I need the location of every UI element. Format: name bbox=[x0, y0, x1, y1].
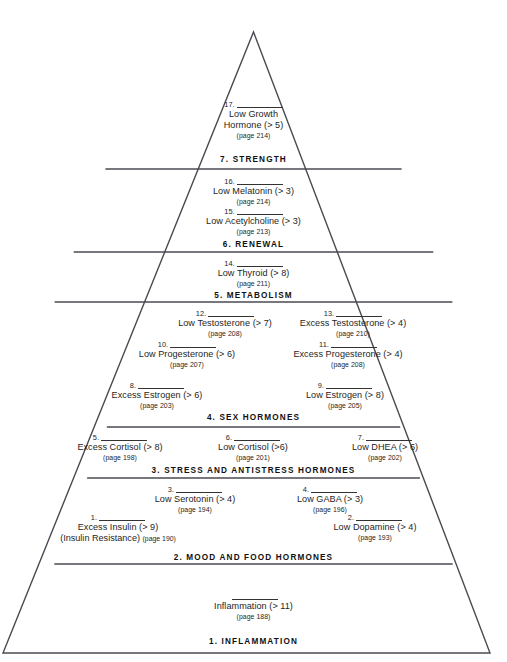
item-2-low-dopamine: 2. Low Dopamine (> 4) (page 193) bbox=[300, 513, 450, 542]
item-11-number-line[interactable]: 11. bbox=[268, 340, 428, 349]
level-label-strength: 7. STRENGTH bbox=[0, 155, 507, 164]
item-1-page-ref: (page 190) bbox=[143, 535, 176, 542]
item-15-number-line[interactable]: 15. bbox=[0, 207, 507, 216]
inflammation-name: Inflammation (> 11) bbox=[0, 601, 507, 612]
level-label-renewal: 6. RENEWAL bbox=[0, 240, 507, 249]
item-16-low-melatonin: 16. Low Melatonin (> 3) (page 214) bbox=[0, 177, 507, 206]
write-in-rule[interactable] bbox=[366, 440, 412, 441]
write-in-rule[interactable] bbox=[331, 347, 377, 348]
item-13-name: Excess Testosterone (> 4) bbox=[278, 318, 428, 329]
item-9-page-ref: (page 205) bbox=[275, 401, 415, 410]
write-in-rule[interactable] bbox=[326, 388, 372, 389]
item-5-number-line[interactable]: 5. bbox=[45, 433, 195, 442]
level-label-sex-hormones: 4. SEX HORMONES bbox=[0, 413, 507, 422]
level-label-metabolism: 5. METABOLISM bbox=[0, 291, 507, 300]
item-17-name: Low Growth bbox=[0, 109, 507, 120]
item-17-low-growth-hormone: 17. Low Growth Hormone (> 5) (page 214) bbox=[0, 100, 507, 140]
write-in-rule[interactable] bbox=[232, 599, 278, 600]
item-3-low-serotonin: 3. Low Serotonin (> 4) (page 194) bbox=[120, 485, 270, 514]
item-11-page-ref: (page 208) bbox=[268, 360, 428, 369]
item-1-excess-insulin: 1. Excess Insulin (> 9) (Insulin Resista… bbox=[28, 513, 208, 544]
item-17-page-ref: (page 214) bbox=[0, 131, 507, 140]
write-in-rule[interactable] bbox=[311, 492, 357, 493]
item-8-number-line[interactable]: 8. bbox=[82, 381, 232, 390]
item-10-page-ref: (page 207) bbox=[112, 360, 262, 369]
write-in-rule[interactable] bbox=[234, 440, 280, 441]
item-7-number-line[interactable]: 7. bbox=[310, 433, 460, 442]
item-13-excess-testosterone: 13. Excess Testosterone (> 4) (page 210) bbox=[278, 309, 428, 338]
item-16-name: Low Melatonin (> 3) bbox=[0, 186, 507, 197]
item-2-page-ref: (page 193) bbox=[300, 533, 450, 542]
write-in-rule[interactable] bbox=[336, 316, 382, 317]
item-13-number-line[interactable]: 13. bbox=[278, 309, 428, 318]
item-14-name: Low Thyroid (> 8) bbox=[0, 268, 507, 279]
item-12-name: Low Testosterone (> 7) bbox=[155, 318, 295, 329]
item-8-page-ref: (page 203) bbox=[82, 401, 232, 410]
item-15-page-ref: (page 213) bbox=[0, 227, 507, 236]
item-4-name: Low GABA (> 3) bbox=[255, 494, 405, 505]
item-8-excess-estrogen: 8. Excess Estrogen (> 6) (page 203) bbox=[82, 381, 232, 410]
item-15-name: Low Acetylcholine (> 3) bbox=[0, 216, 507, 227]
write-in-rule[interactable] bbox=[237, 184, 283, 185]
item-5-excess-cortisol: 5. Excess Cortisol (> 8) (page 198) bbox=[45, 433, 195, 462]
inflammation-number-line[interactable] bbox=[0, 592, 507, 601]
write-in-rule[interactable] bbox=[176, 492, 222, 493]
item-3-name: Low Serotonin (> 4) bbox=[120, 494, 270, 505]
item-10-low-progesterone: 10. Low Progesterone (> 6) (page 207) bbox=[112, 340, 262, 369]
write-in-rule[interactable] bbox=[101, 440, 147, 441]
pyramid-diagram-page: 17. Low Growth Hormone (> 5) (page 214) … bbox=[0, 0, 507, 662]
item-10-number-line[interactable]: 10. bbox=[112, 340, 262, 349]
level-label-mood-food-hormones: 2. MOOD AND FOOD HORMONES bbox=[0, 553, 507, 562]
item-15-low-acetylcholine: 15. Low Acetylcholine (> 3) (page 213) bbox=[0, 207, 507, 236]
write-in-rule[interactable] bbox=[237, 107, 283, 108]
item-13-page-ref: (page 210) bbox=[278, 329, 428, 338]
item-17-number-line[interactable]: 17. bbox=[0, 100, 507, 109]
item-17-name-line2: Hormone (> 5) bbox=[0, 120, 507, 131]
write-in-rule[interactable] bbox=[138, 388, 184, 389]
item-2-name: Low Dopamine (> 4) bbox=[300, 522, 450, 533]
item-14-number-line[interactable]: 14. bbox=[0, 259, 507, 268]
item-7-low-dhea: 7. Low DHEA (> 6) (page 202) bbox=[310, 433, 460, 462]
item-5-page-ref: (page 198) bbox=[45, 453, 195, 462]
item-6-low-cortisol: 6. Low Cortisol (>6) (page 201) bbox=[178, 433, 328, 462]
item-1-number-line[interactable]: 1. bbox=[28, 513, 208, 522]
item-1-name: Excess Insulin (> 9) bbox=[28, 522, 208, 533]
item-6-page-ref: (page 201) bbox=[178, 453, 328, 462]
item-12-low-testosterone: 12. Low Testosterone (> 7) (page 208) bbox=[155, 309, 295, 338]
level-label-stress-hormones: 3. STRESS AND ANTISTRESS HORMONES bbox=[0, 466, 507, 475]
item-8-name: Excess Estrogen (> 6) bbox=[82, 390, 232, 401]
item-inflammation: Inflammation (> 11) (page 188) bbox=[0, 592, 507, 621]
write-in-rule[interactable] bbox=[237, 214, 283, 215]
item-1-subtitle: (Insulin Resistance) bbox=[60, 533, 140, 543]
write-in-rule[interactable] bbox=[170, 347, 216, 348]
item-6-name: Low Cortisol (>6) bbox=[178, 442, 328, 453]
item-2-number-line[interactable]: 2. bbox=[300, 513, 450, 522]
item-9-name: Low Estrogen (> 8) bbox=[275, 390, 415, 401]
item-7-page-ref: (page 202) bbox=[310, 453, 460, 462]
write-in-rule[interactable] bbox=[99, 520, 145, 521]
item-7-name: Low DHEA (> 6) bbox=[310, 442, 460, 453]
item-6-number-line[interactable]: 6. bbox=[178, 433, 328, 442]
write-in-rule[interactable] bbox=[208, 316, 254, 317]
write-in-rule[interactable] bbox=[356, 520, 402, 521]
item-11-name: Excess Progesterone (> 4) bbox=[268, 349, 428, 360]
item-12-number-line[interactable]: 12. bbox=[155, 309, 295, 318]
item-12-page-ref: (page 208) bbox=[155, 329, 295, 338]
level-label-inflammation: 1. INFLAMMATION bbox=[0, 637, 507, 646]
item-11-excess-progesterone: 11. Excess Progesterone (> 4) (page 208) bbox=[268, 340, 428, 369]
item-10-name: Low Progesterone (> 6) bbox=[112, 349, 262, 360]
item-14-low-thyroid: 14. Low Thyroid (> 8) (page 211) bbox=[0, 259, 507, 288]
item-3-number-line[interactable]: 3. bbox=[120, 485, 270, 494]
item-4-low-gaba: 4. Low GABA (> 3) (page 196) bbox=[255, 485, 405, 514]
item-4-number-line[interactable]: 4. bbox=[255, 485, 405, 494]
item-16-number-line[interactable]: 16. bbox=[0, 177, 507, 186]
write-in-rule[interactable] bbox=[237, 266, 283, 267]
item-9-number-line[interactable]: 9. bbox=[275, 381, 415, 390]
item-14-page-ref: (page 211) bbox=[0, 279, 507, 288]
item-9-low-estrogen: 9. Low Estrogen (> 8) (page 205) bbox=[275, 381, 415, 410]
item-5-name: Excess Cortisol (> 8) bbox=[45, 442, 195, 453]
item-1-name-line2-with-page: (Insulin Resistance) (page 190) bbox=[28, 533, 208, 544]
item-16-page-ref: (page 214) bbox=[0, 197, 507, 206]
inflammation-page-ref: (page 188) bbox=[0, 612, 507, 621]
